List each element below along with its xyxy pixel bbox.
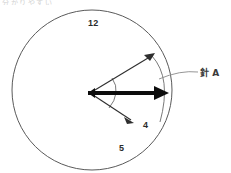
thin-hand-lower [90,93,131,120]
bold-hand-tail-arrowhead [88,88,95,98]
callout-label-hand-a: 針 A [200,69,219,78]
diagram-canvas: 分かりやすい 12 4 5 針 A [0,0,231,173]
callout-leader-line [159,72,198,79]
thin-hand-upper [90,55,153,93]
hour-number-5: 5 [119,144,124,153]
inner-angle-arc-upper [112,78,116,93]
clock-diagram-svg [0,0,231,173]
hour-number-4: 4 [143,121,148,130]
bold-hand-arrowhead [154,86,169,100]
hour-number-12: 12 [88,19,99,28]
clock-circle [12,10,172,170]
